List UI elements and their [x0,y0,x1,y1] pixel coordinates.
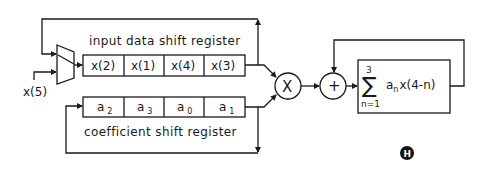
add-symbol: + [328,77,341,95]
coef-cell-3: a0 [177,100,192,116]
input-cell-2: x(1) [131,59,155,73]
fir-filter-diagram: input data shift register x(2) x(1) x(4)… [0,0,488,173]
input-cell-1: x(2) [91,59,115,73]
sum-lower-limit: n=1 [361,99,380,109]
coefficient-register-label: coefficient shift register [84,125,237,139]
new-input-label: x(5) [23,85,47,99]
multiplexer [57,45,74,84]
input-cell-3: x(4) [171,59,195,73]
coef-cell-4: a1 [219,100,234,116]
multiply-symbol: X [282,78,292,96]
input-register-label: input data shift register [89,34,241,48]
h-badge-letter: H [404,149,412,159]
new-input-line [34,72,56,80]
input-cell-4: x(3) [211,59,235,73]
sum-term: anx(4-n) [386,78,435,94]
coef-cell-2: a3 [137,100,152,116]
coef-cell-1: a2 [97,100,112,116]
sigma-symbol: ∑ [362,73,377,98]
